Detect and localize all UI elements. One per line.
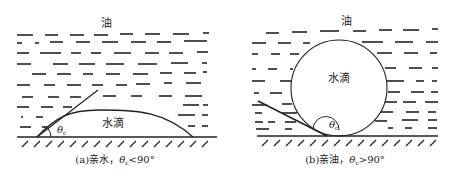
wettability-diagram: 油 水滴 θc (a)亲水，θc<90° 油 水滴: [0, 0, 453, 176]
water-drop-b: [291, 40, 387, 136]
drop-label-b: 水滴: [328, 71, 350, 85]
surface-hatching-a: [22, 141, 208, 147]
caption-a: (a)亲水，θc<90°: [75, 153, 154, 166]
panel-b-oleophilic: 油 水滴 θc (b)亲油，θc>90°: [252, 14, 438, 166]
drop-label-a: 水滴: [102, 116, 124, 130]
oil-label-a: 油: [101, 16, 112, 30]
oil-label-b: 油: [341, 14, 352, 28]
panel-a-hydrophilic: 油 水滴 θc (a)亲水，θc<90°: [17, 16, 217, 166]
caption-b: (b)亲油，θc>90°: [305, 153, 385, 166]
surface-hatching-b: [262, 140, 436, 146]
